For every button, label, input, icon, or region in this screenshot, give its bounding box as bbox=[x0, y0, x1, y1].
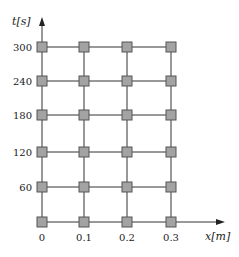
x-tick-label: 0.2 bbox=[119, 232, 135, 243]
x-tick-label: 0 bbox=[39, 232, 45, 243]
y-axis-label: t[s] bbox=[12, 15, 31, 28]
x-axis-arrow-icon bbox=[216, 219, 225, 225]
x-tick-label: 0.1 bbox=[76, 232, 92, 243]
y-axis-arrow-icon bbox=[39, 17, 45, 26]
grid-nodes bbox=[37, 42, 176, 227]
y-tick-label: 240 bbox=[13, 76, 32, 87]
vertical-grid-lines bbox=[84, 47, 171, 222]
horizontal-grid-lines bbox=[42, 47, 171, 187]
mesh-diagram: t[s] 300 240 180 120 60 0 0.1 0.2 0.3 x[… bbox=[0, 0, 239, 257]
x-tick-label: 0.3 bbox=[163, 232, 179, 243]
x-axis bbox=[42, 219, 225, 225]
y-tick-label: 180 bbox=[13, 110, 32, 121]
x-axis-label: x[m] bbox=[205, 230, 231, 243]
y-tick-label: 60 bbox=[19, 182, 32, 193]
y-tick-label: 120 bbox=[13, 147, 32, 158]
y-tick-label: 300 bbox=[13, 42, 32, 53]
